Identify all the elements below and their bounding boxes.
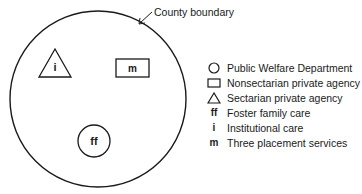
nonsectarian-agency-rectangle: m [116,59,149,77]
legend-item: m Three placement services [204,135,360,150]
legend: Public Welfare Department Nonsectarian p… [204,60,360,150]
legend-label: Sectarian private agency [227,92,343,104]
circle-icon [204,62,224,74]
legend-label: Public Welfare Department [227,62,352,74]
legend-item: Public Welfare Department [204,60,360,75]
county-boundary-label: County boundary [154,6,234,18]
legend-item: Sectarian private agency [204,90,360,105]
triangle-icon [204,92,224,104]
legend-label: Nonsectarian private agency [227,77,360,89]
sectarian-agency-triangle: i [39,49,71,77]
circle-letter: ff [90,135,98,147]
foster-care-symbol: ff [204,107,224,118]
legend-item: ff Foster family care [204,105,360,120]
rectangle-letter: m [128,63,137,74]
three-services-symbol: m [204,137,224,148]
public-welfare-circle: ff [78,125,110,157]
rectangle-icon [204,78,224,88]
institutional-care-symbol: i [204,122,224,133]
boundary-arrow-icon [139,12,152,24]
legend-label: Foster family care [227,107,310,119]
legend-label: Institutional care [227,122,303,134]
county-boundary-circle [10,11,186,187]
legend-item: i Institutional care [204,120,360,135]
triangle-letter: i [53,61,56,73]
legend-item: Nonsectarian private agency [204,75,360,90]
legend-label: Three placement services [227,137,347,149]
